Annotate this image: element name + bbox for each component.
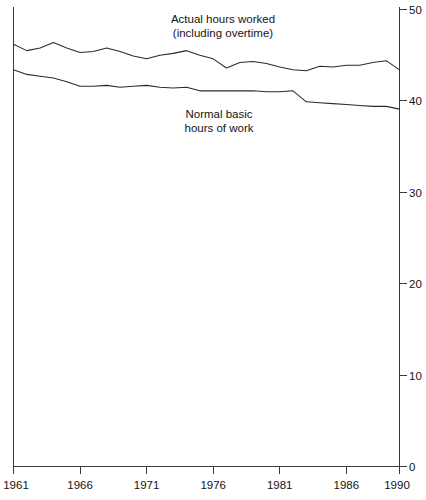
x-tick-label-1986: 1986: [334, 479, 360, 491]
series-line-normal-basic-hours: [14, 70, 400, 109]
y-tick-label-30: 30: [409, 187, 422, 199]
y-tick-label-50: 50: [409, 4, 422, 16]
x-tick-label-1981: 1981: [267, 479, 293, 491]
y-tick-label-20: 20: [409, 278, 422, 290]
line-chart: 50 40 30 20 10 0 1961 1966 1971 1976 198…: [0, 0, 426, 500]
chart-canvas: 50 40 30 20 10 0 1961 1966 1971 1976 198…: [0, 0, 426, 500]
y-tick-label-10: 10: [409, 370, 422, 382]
annotation-actual-hours-line2: (including overtime): [173, 27, 274, 39]
x-tick-label-1971: 1971: [134, 479, 160, 491]
annotation-normal-basic-line1: Normal basic: [185, 108, 252, 120]
annotation-actual-hours-line1: Actual hours worked: [171, 13, 275, 25]
x-tick-label-1990: 1990: [384, 479, 410, 491]
x-tick-label-1966: 1966: [67, 479, 93, 491]
y-axis-ticks: [400, 10, 407, 467]
y-tick-label-0: 0: [409, 461, 415, 473]
series-line-actual-hours: [14, 42, 400, 70]
x-tick-label-1961: 1961: [3, 479, 29, 491]
y-tick-label-40: 40: [409, 95, 422, 107]
x-tick-label-1976: 1976: [200, 479, 226, 491]
x-axis-ticks: [14, 467, 400, 475]
annotation-normal-basic-line2: hours of work: [184, 122, 253, 134]
